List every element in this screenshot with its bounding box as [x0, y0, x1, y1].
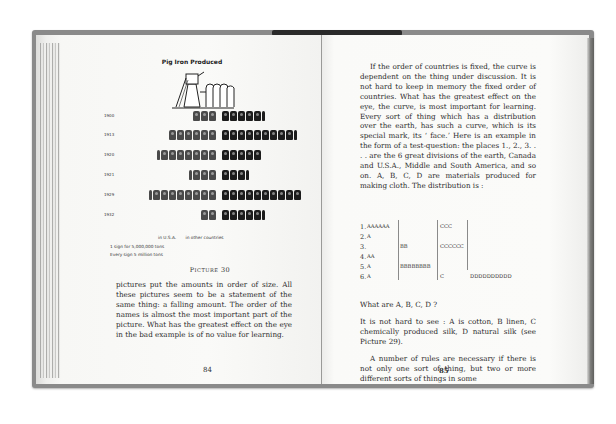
- pig-iron-sign-icon: [238, 150, 245, 160]
- pig-iron-sign-icon: [270, 190, 277, 200]
- pig-iron-sign-icon: [209, 170, 216, 180]
- pig-iron-sign-icon: [230, 111, 237, 121]
- pig-iron-sign-icon: [157, 150, 160, 160]
- pig-iron-sign-icon: [254, 111, 261, 121]
- right-body-para1: If the order of countries is fixed, the …: [360, 62, 536, 191]
- pig-iron-sign-icon: [278, 190, 285, 200]
- pig-iron-sign-icon: [246, 130, 253, 140]
- pig-iron-sign-icon: [209, 210, 216, 220]
- pig-iron-sign-icon: [177, 150, 184, 160]
- chart-row: 1921: [104, 170, 304, 184]
- distribution-row: 5.ABBBBBBBB: [360, 262, 540, 272]
- chart-row: 1932: [104, 210, 304, 224]
- chart-row: 1929: [104, 190, 304, 204]
- distribution-cell-num: 4.: [360, 253, 366, 261]
- pig-iron-sign-icon: [201, 150, 208, 160]
- chart-row: 1913: [104, 130, 304, 144]
- year-label: 1929: [104, 192, 114, 197]
- other-countries-signs: [222, 170, 249, 180]
- pig-iron-sign-icon: [201, 130, 208, 140]
- other-countries-signs: [222, 150, 261, 160]
- distribution-cell-c: CCC: [440, 223, 452, 229]
- right-body-para2: What are A, B, C, D ? It is not hard to …: [360, 293, 536, 391]
- year-label: 1900: [104, 113, 114, 118]
- distribution-row: 1.AAAAAACCC: [360, 222, 540, 232]
- pig-iron-sign-icon: [169, 150, 176, 160]
- pig-iron-sign-icon: [161, 150, 168, 160]
- pig-iron-sign-icon: [222, 130, 229, 140]
- distribution-row: 4.AA: [360, 252, 540, 262]
- distribution-row: 6.ACDDDDDDDDDD: [360, 272, 540, 282]
- pig-iron-sign-icon: [169, 190, 176, 200]
- usa-signs: [169, 130, 216, 140]
- legend-note-1: 1 sign for 5,000,000 tons: [110, 244, 164, 249]
- distribution-cell-c: CCCCCC: [440, 243, 464, 249]
- pig-iron-sign-icon: [230, 190, 237, 200]
- pig-iron-sign-icon: [238, 130, 245, 140]
- pig-iron-sign-icon: [189, 170, 192, 180]
- distribution-cell-b: BBBBBBBB: [400, 263, 431, 269]
- distribution-cell-c: C: [440, 273, 444, 279]
- pig-iron-sign-icon: [201, 210, 208, 220]
- pig-iron-sign-icon: [238, 111, 245, 121]
- pig-iron-sign-icon: [222, 190, 229, 200]
- cover-right-edge: [587, 38, 594, 384]
- distribution-cell-a: AAAAAA: [367, 223, 389, 229]
- distribution-cell-a: A: [367, 233, 371, 239]
- other-countries-signs: [222, 130, 297, 140]
- pig-iron-sign-icon: [193, 170, 200, 180]
- chart-row: 1920: [104, 150, 304, 164]
- page-number-left: 84: [203, 366, 212, 374]
- pig-iron-sign-icon: [201, 170, 208, 180]
- pig-iron-sign-icon: [262, 190, 269, 200]
- pig-iron-sign-icon: [185, 190, 192, 200]
- pig-iron-sign-icon: [286, 190, 293, 200]
- pig-iron-sign-icon: [222, 111, 229, 121]
- pig-iron-sign-icon: [201, 190, 208, 200]
- other-countries-signs: [222, 111, 265, 121]
- pig-iron-sign-icon: [254, 210, 261, 220]
- other-countries-signs: [222, 190, 301, 200]
- page-edges: [40, 43, 60, 378]
- pig-iron-sign-icon: [230, 170, 237, 180]
- book-gutter: [321, 35, 322, 384]
- usa-signs: [157, 150, 216, 160]
- pig-iron-sign-icon: [230, 130, 237, 140]
- pig-iron-sign-icon: [161, 190, 168, 200]
- pig-iron-sign-icon: [262, 210, 265, 220]
- year-label: 1921: [104, 172, 114, 177]
- other-countries-signs: [222, 210, 265, 220]
- pig-iron-sign-icon: [185, 150, 192, 160]
- pig-iron-sign-icon: [294, 130, 297, 140]
- distribution-cell-a: A: [367, 263, 371, 269]
- chart-row: 1900: [104, 111, 304, 125]
- pig-iron-sign-icon: [270, 130, 277, 140]
- distribution-cell-num: 5.: [360, 263, 366, 271]
- pig-iron-sign-icon: [238, 210, 245, 220]
- usa-signs: [201, 210, 216, 220]
- pig-iron-sign-icon: [193, 130, 200, 140]
- pig-iron-sign-icon: [209, 111, 216, 121]
- distribution-cell-a: AA: [367, 253, 375, 259]
- pig-iron-sign-icon: [209, 190, 216, 200]
- pig-iron-sign-icon: [193, 190, 200, 200]
- distribution-cell-a: A: [367, 273, 371, 279]
- pig-iron-sign-icon: [254, 130, 261, 140]
- pig-iron-sign-icon: [294, 190, 301, 200]
- pig-iron-sign-icon: [153, 190, 160, 200]
- pig-iron-sign-icon: [185, 130, 192, 140]
- pig-iron-sign-icon: [169, 130, 176, 140]
- pig-iron-sign-icon: [254, 150, 261, 160]
- pig-iron-sign-icon: [209, 150, 216, 160]
- usa-signs: [149, 190, 216, 200]
- pig-iron-sign-icon: [286, 130, 293, 140]
- year-label: 1920: [104, 152, 114, 157]
- pig-iron-sign-icon: [177, 190, 184, 200]
- pig-iron-sign-icon: [238, 190, 245, 200]
- usa-signs: [189, 170, 216, 180]
- legend-note-2: Every sign 5 million tons: [110, 252, 163, 257]
- year-label: 1932: [104, 212, 114, 217]
- year-label: 1913: [104, 132, 114, 137]
- pig-iron-sign-icon: [278, 130, 285, 140]
- distribution-row: 3.BBCCCCCC: [360, 242, 540, 252]
